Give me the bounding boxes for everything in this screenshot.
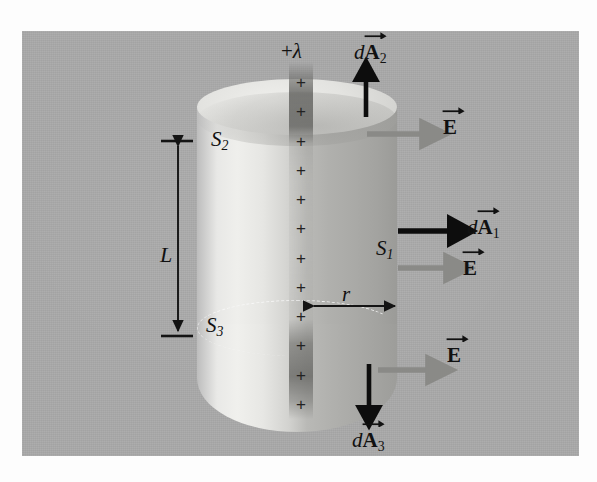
E-letter: E	[447, 343, 461, 367]
subscript-2: 2	[380, 51, 387, 66]
S-letter: S	[211, 127, 222, 151]
E-letter: E	[463, 256, 477, 280]
label-E-top: E	[443, 115, 457, 140]
subscript-1: 1	[493, 226, 500, 241]
label-E-middle: E	[463, 256, 477, 281]
subscript-2: 2	[222, 138, 229, 153]
label-dA2: dA2	[354, 40, 387, 67]
A-vector-symbol: A	[363, 428, 378, 453]
subscript-3: 3	[378, 439, 385, 454]
label-surface-S1: S1	[376, 236, 393, 263]
S-letter: S	[206, 313, 217, 337]
E-vector-symbol: E	[463, 256, 477, 281]
lambda-symbol: λ	[293, 39, 302, 63]
label-E-bottom: E	[447, 343, 461, 368]
dimension-L	[161, 141, 193, 336]
subscript-1: 1	[387, 247, 394, 262]
E-letter: E	[443, 115, 457, 139]
label-surface-S3: S3	[206, 313, 223, 340]
label-radius-r: r	[342, 282, 350, 307]
label-dA1: dA1	[467, 215, 500, 242]
A-vector-symbol: A	[365, 40, 380, 65]
d-prefix: d	[467, 215, 478, 239]
A-vector-symbol: A	[478, 215, 493, 240]
A-letter: A	[365, 40, 380, 64]
label-length-L: L	[160, 242, 172, 268]
label-dA3: dA3	[352, 428, 385, 455]
vector-arrows-layer	[0, 0, 597, 482]
figure-root: ++++++++++++	[0, 0, 597, 482]
label-surface-S2: S2	[211, 127, 228, 154]
label-charge-density: +λ	[281, 39, 302, 64]
S-letter: S	[376, 236, 387, 260]
d-prefix: d	[354, 40, 365, 64]
d-prefix: d	[352, 428, 363, 452]
A-letter: A	[363, 428, 378, 452]
E-vector-symbol: E	[447, 343, 461, 368]
subscript-3: 3	[217, 324, 224, 339]
A-letter: A	[478, 215, 493, 239]
plus-symbol: +	[281, 39, 293, 63]
E-vector-symbol: E	[443, 115, 457, 140]
